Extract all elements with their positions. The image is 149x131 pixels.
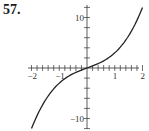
x-tick-label: 2 bbox=[141, 71, 146, 81]
x-tick-label: −2 bbox=[28, 71, 38, 81]
x-tick-label: 1 bbox=[113, 71, 118, 81]
y-tick-label: 10 bbox=[75, 13, 85, 23]
y-tick-label: −10 bbox=[70, 114, 85, 124]
cubic-graph: −2−11210−10 bbox=[0, 0, 149, 131]
axes bbox=[28, 5, 139, 129]
